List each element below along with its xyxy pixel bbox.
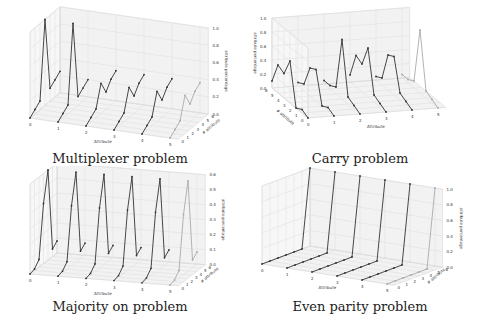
z-tick: 0.6 <box>260 44 267 49</box>
x-tick: 4 <box>141 138 144 143</box>
y-axis-label: # attribute <box>275 108 296 126</box>
y-tick: 6 <box>265 88 268 93</box>
y-tick: 5 <box>206 118 209 123</box>
chart-caption: Carry problem <box>240 151 480 166</box>
z-tick: 0.2 <box>260 72 267 77</box>
y-tick: 4 <box>199 272 202 277</box>
x-tick: 3 <box>113 134 116 139</box>
x-tick: 1 <box>57 126 60 131</box>
y-tick: 2 <box>191 131 194 136</box>
z-tick: 0.3 <box>209 217 216 222</box>
x-tick: 3 <box>336 280 339 285</box>
z-tick: 0.8 <box>447 202 454 207</box>
z-tick: 1.0 <box>260 16 267 21</box>
x-tick: 5 <box>386 288 389 293</box>
x-tick: 4 <box>141 287 144 292</box>
z-tick: 0.4 <box>212 77 219 82</box>
z-tick: 0.8 <box>260 30 267 35</box>
x-tick: 2 <box>85 130 88 135</box>
x-tick: 2 <box>359 118 362 123</box>
x-axis-label: Attribute <box>367 124 385 129</box>
chart-caption: Even parity problem <box>240 299 480 314</box>
z-tick: 0.1 <box>209 247 216 252</box>
x-tick: 3 <box>113 285 116 290</box>
z-tick: 0.6 <box>212 60 219 65</box>
z-tick: 0.2 <box>212 94 219 99</box>
y-tick: 1 <box>186 135 189 140</box>
x-tick: 5 <box>169 289 172 294</box>
chart-caption: Majority on problem <box>0 299 240 314</box>
z-tick: 0.8 <box>212 43 219 48</box>
y-tick: 3 <box>422 276 425 281</box>
y-tick: 1 <box>406 282 409 287</box>
chart-majority-on: 0.00.10.20.30.40.50.60123450123456Attrib… <box>0 166 240 332</box>
z-tick: 0.4 <box>260 58 267 63</box>
y-tick: 3 <box>196 127 199 132</box>
y-tick: 0 <box>301 118 304 123</box>
x-tick: 1 <box>333 120 336 125</box>
chart-multiplexer: 0.00.20.40.60.81.00123450123456Attribute… <box>0 0 240 166</box>
y-tick: 1 <box>186 282 189 287</box>
y-tick: 2 <box>190 279 193 284</box>
y-tick: 0 <box>398 285 401 290</box>
x-tick: 0 <box>261 268 264 273</box>
x-tick: 0 <box>29 122 32 127</box>
y-tick: 4 <box>201 122 204 127</box>
y-tick: 3 <box>283 103 286 108</box>
x-tick: 2 <box>311 276 314 281</box>
z-axis-label: attribute percentage <box>224 50 229 92</box>
x-tick: 0 <box>307 122 310 127</box>
y-tick: 5 <box>271 93 274 98</box>
y-tick: 3 <box>195 275 198 280</box>
x-axis-label: Attribute <box>94 291 112 296</box>
x-tick: 1 <box>286 272 289 277</box>
y-tick: 0 <box>181 286 184 291</box>
y-tick: 5 <box>204 268 207 273</box>
plot-area: 0.00.20.40.60.81.00123450123456Attribute… <box>0 0 240 150</box>
z-tick: 0.2 <box>209 232 216 237</box>
y-tick: 2 <box>289 108 292 113</box>
plot-area: 0.00.10.20.30.40.50.60123450123456Attrib… <box>0 166 240 306</box>
z-tick: 0.4 <box>209 202 216 207</box>
z-tick: 0.6 <box>209 172 216 177</box>
chart-carry: 0.00.20.40.60.81.00123450123456Attribute… <box>240 0 480 166</box>
y-tick: 6 <box>211 114 214 119</box>
z-tick: 0.6 <box>447 218 454 223</box>
chart-caption: Multiplexer problem <box>0 151 240 166</box>
z-tick: 1.0 <box>447 187 454 192</box>
y-tick: 4 <box>277 98 280 103</box>
z-axis-label: attribute percentage <box>253 32 258 74</box>
x-tick: 1 <box>57 280 60 285</box>
x-tick: 3 <box>385 116 388 121</box>
x-tick: 4 <box>361 284 364 289</box>
plot-area: 0.00.20.40.60.81.00123450123456Attribute… <box>240 166 480 306</box>
x-tick: 0 <box>29 278 32 283</box>
x-tick: 2 <box>85 282 88 287</box>
z-axis-label: attribute percentage <box>221 199 226 241</box>
y-tick: 6 <box>208 265 211 270</box>
z-tick: 0.5 <box>209 187 216 192</box>
z-tick: 0.4 <box>447 234 454 239</box>
x-axis-label: Attribute <box>94 139 112 144</box>
plot-area: 0.00.20.40.60.81.00123450123456Attribute… <box>240 0 480 150</box>
z-tick: 1.0 <box>212 26 219 31</box>
x-tick: 5 <box>169 142 172 147</box>
x-tick: 4 <box>411 114 414 119</box>
y-tick: 0 <box>181 139 184 144</box>
y-tick: 1 <box>295 113 298 118</box>
z-axis-label: attribute percentage <box>459 207 464 249</box>
x-axis-label: Attribute <box>319 285 337 290</box>
z-tick: 0.2 <box>447 249 454 254</box>
x-tick: 5 <box>437 112 440 117</box>
chart-even-parity: 0.00.20.40.60.81.00123450123456Attribute… <box>240 166 480 332</box>
y-tick: 2 <box>414 279 417 284</box>
